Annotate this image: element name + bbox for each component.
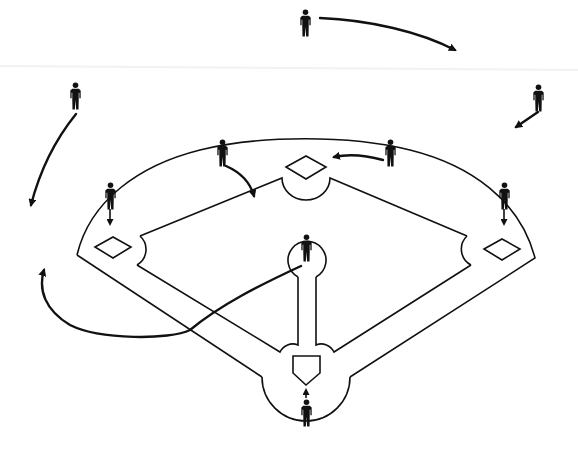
center-fielder-icon bbox=[300, 9, 310, 36]
left-fielder-icon bbox=[70, 82, 80, 109]
pitcher-icon bbox=[301, 234, 311, 261]
home-plate bbox=[293, 356, 320, 385]
right-fielder-arrow bbox=[516, 112, 538, 127]
right-fielder-icon bbox=[533, 84, 543, 111]
third-base bbox=[95, 237, 131, 258]
first-base bbox=[484, 239, 520, 260]
pitcher-arrow bbox=[42, 266, 301, 337]
background-divider bbox=[0, 66, 578, 70]
second-base bbox=[286, 156, 326, 179]
shortstop-icon bbox=[217, 139, 227, 166]
catcher-icon bbox=[301, 399, 311, 426]
center-fielder-arrow bbox=[320, 18, 455, 50]
infield-grass-boundary bbox=[137, 178, 471, 352]
second-baseman-arrow bbox=[334, 155, 383, 160]
left-fielder-arrow bbox=[31, 114, 76, 205]
third-baseman-icon bbox=[105, 182, 115, 209]
baseball-field-diagram bbox=[0, 0, 578, 453]
second-baseman-icon bbox=[385, 139, 395, 166]
